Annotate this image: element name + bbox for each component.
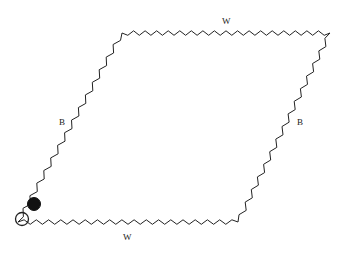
open-circle-marker xyxy=(16,213,29,226)
edge-label-right: B xyxy=(297,118,303,127)
zigzag-edge-top xyxy=(122,31,330,36)
edge-label-left: B xyxy=(59,118,65,127)
filled-circle-marker xyxy=(28,198,41,211)
zigzag-edge-right xyxy=(238,33,330,222)
zigzag-edge-bottom xyxy=(18,220,238,225)
edge-label-bottom: W xyxy=(123,233,132,242)
zigzag-edge-left xyxy=(18,33,122,222)
edge-label-top: W xyxy=(222,17,231,26)
